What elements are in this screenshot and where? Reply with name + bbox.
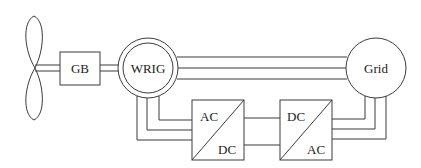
rotor-side-converter: AC DC bbox=[192, 100, 244, 160]
gearbox-block: GB bbox=[60, 52, 100, 85]
shaft-gearbox-generator bbox=[100, 65, 119, 71]
generator-block: WRIG bbox=[118, 38, 178, 98]
gearbox-label: GB bbox=[71, 61, 89, 76]
rsc-bottom-label: DC bbox=[218, 142, 236, 157]
gsc-bottom-label: AC bbox=[307, 142, 325, 157]
stator-lines bbox=[177, 57, 347, 79]
dfig-diagram: GB WRIG AC DC DC AC bbox=[0, 0, 421, 168]
dc-link bbox=[244, 118, 280, 145]
grid-side-converter: DC AC bbox=[280, 100, 332, 160]
grid-label: Grid bbox=[364, 61, 388, 76]
gsc-top-label: DC bbox=[287, 109, 305, 124]
rotor-leads bbox=[137, 95, 192, 140]
turbine-blade-icon bbox=[26, 16, 43, 120]
shaft-turbine-gearbox bbox=[35, 65, 60, 71]
gsc-grid-leads bbox=[332, 96, 386, 139]
grid-block: Grid bbox=[346, 38, 406, 98]
rsc-top-label: AC bbox=[200, 109, 218, 124]
generator-label: WRIG bbox=[131, 61, 166, 76]
